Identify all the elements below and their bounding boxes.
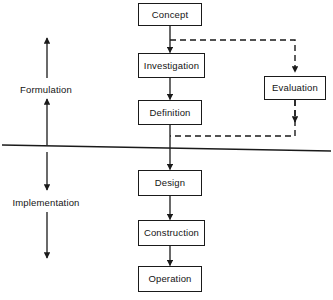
node-evaluation-label: Evaluation: [272, 83, 318, 93]
phase-divider-line: [2, 145, 331, 151]
phase-label-formulation: Formulation: [8, 84, 84, 95]
diagram-canvas: [0, 0, 333, 300]
node-concept[interactable]: Concept: [138, 3, 202, 26]
node-concept-label: Concept: [152, 10, 188, 20]
node-operation[interactable]: Operation: [138, 266, 202, 292]
node-investigation-label: Investigation: [144, 61, 199, 71]
node-definition[interactable]: Definition: [138, 100, 202, 125]
node-definition-label: Definition: [149, 108, 190, 118]
phase-label-implementation: Implementation: [4, 197, 88, 208]
node-construction[interactable]: Construction: [138, 220, 205, 246]
node-design-label: Design: [155, 178, 185, 188]
node-evaluation[interactable]: Evaluation: [264, 76, 326, 100]
node-design[interactable]: Design: [138, 170, 202, 196]
node-operation-label: Operation: [148, 274, 191, 284]
node-investigation[interactable]: Investigation: [138, 53, 205, 78]
project-lifecycle-diagram: Concept Investigation Definition Evaluat…: [0, 0, 333, 300]
node-construction-label: Construction: [144, 228, 199, 238]
